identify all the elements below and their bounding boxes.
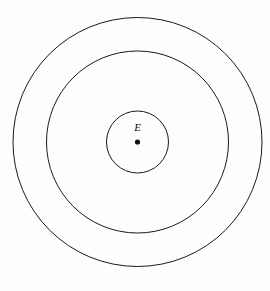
figure-canvas: E bbox=[0, 0, 270, 291]
center-label-e: E bbox=[133, 121, 141, 133]
concentric-circles-diagram: E bbox=[0, 0, 270, 291]
center-dot bbox=[135, 139, 140, 144]
